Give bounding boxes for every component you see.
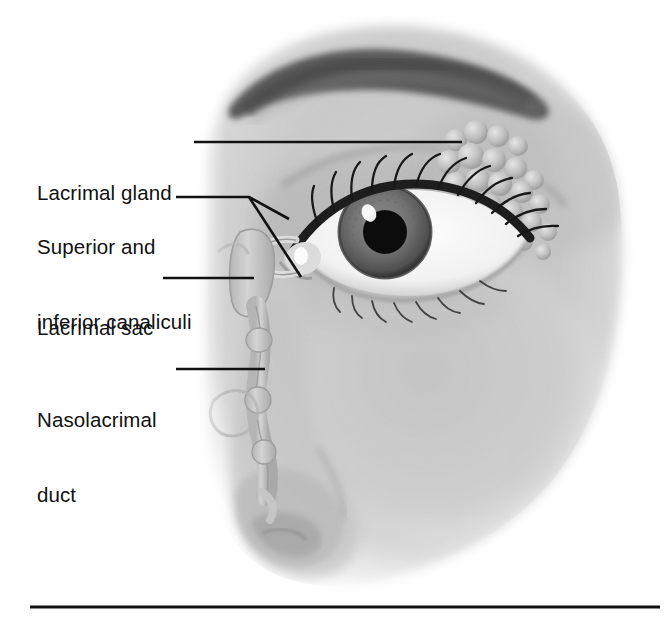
label-nasolacrimal-duct-line-2: duct: [37, 482, 157, 507]
label-canaliculi-line-1: Superior and: [37, 234, 192, 259]
left-edge-fade: [186, 0, 226, 625]
label-lacrimal-sac-line-1: Lacrimal sac: [37, 315, 153, 340]
label-nasolacrimal-duct-line-1: Nasolacrimal: [37, 407, 157, 432]
figure-canvas: Lacrimal gland Superior and inferior can…: [0, 0, 668, 625]
label-nasolacrimal-duct: Nasolacrimal duct: [37, 357, 157, 557]
